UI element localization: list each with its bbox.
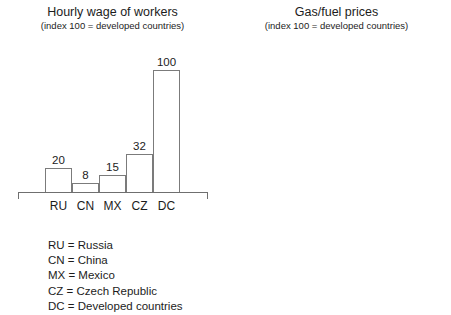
bar-rect: [99, 175, 126, 194]
bar-value-label: 8: [82, 169, 88, 182]
x-tick-label-dc: DC: [153, 199, 180, 213]
x-tick-label-ru: RU: [45, 199, 72, 213]
legend-row: CZ = Czech Republic: [48, 284, 183, 299]
legend-row: MX = Mexico: [48, 268, 183, 283]
legend-row: RU = Russia: [48, 238, 183, 253]
bar-rect: [153, 70, 180, 193]
x-axis-labels-left: RUCNMXCZDC: [45, 199, 180, 213]
x-tick-label-mx: MX: [99, 199, 126, 213]
x-tick-label-cz: CZ: [126, 199, 153, 213]
bar-ru: 20: [45, 45, 72, 193]
bar-dc: 100: [153, 45, 180, 193]
bar-value-label: 20: [52, 154, 65, 167]
bar-group-left: 2081532100: [45, 45, 180, 193]
x-axis-left: [18, 192, 208, 199]
figure: Hourly wage of workers (index 100 = deve…: [0, 0, 451, 315]
x-tick-label-cn: CN: [72, 199, 99, 213]
plot-area-right: 257565120100 RUCNMXCZDC: [222, 0, 451, 222]
chart-hourly-wage: Hourly wage of workers (index 100 = deve…: [0, 0, 225, 222]
legend: RU = RussiaCN = ChinaMX = MexicoCZ = Cze…: [48, 238, 183, 314]
bar-value-label: 32: [133, 140, 146, 153]
bar-value-label: 100: [157, 56, 176, 69]
bar-cz: 32: [126, 45, 153, 193]
plot-area-left: 2081532100 RUCNMXCZDC: [0, 0, 225, 222]
legend-row: DC = Developed countries: [48, 299, 183, 314]
bar-rect: [45, 168, 72, 193]
bar-rect: [126, 154, 153, 193]
bar-cn: 8: [72, 45, 99, 193]
bar-mx: 15: [99, 45, 126, 193]
bar-value-label: 15: [106, 161, 119, 174]
chart-gas-fuel-prices: Gas/fuel prices (index 100 = developed c…: [222, 0, 451, 222]
legend-row: CN = China: [48, 253, 183, 268]
